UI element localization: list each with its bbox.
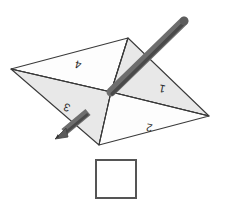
pencil-eraser-end xyxy=(180,17,189,26)
answer-box-group[interactable] xyxy=(96,160,136,198)
figure-canvas: 4 1 3 2 xyxy=(0,0,228,204)
answer-box[interactable] xyxy=(96,160,136,198)
paper-folding-puzzle: 4 1 3 2 xyxy=(0,0,228,204)
